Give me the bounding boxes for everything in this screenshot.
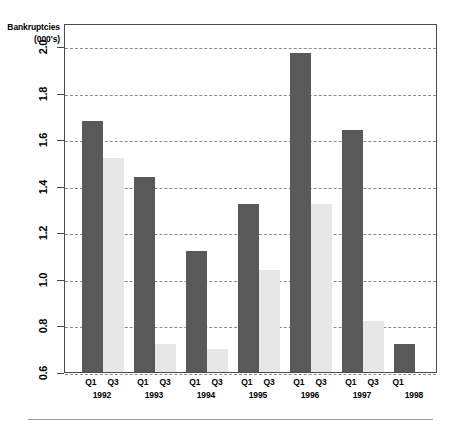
x-axis-year-label: 1997 bbox=[333, 390, 391, 402]
x-axis-group-1996: Q1Q31996 bbox=[281, 377, 339, 401]
x-axis-group-1993: Q1Q31993 bbox=[125, 377, 183, 401]
bar-q3-1992 bbox=[103, 158, 124, 372]
y-axis-title-line1: Bankruptcies bbox=[7, 22, 60, 32]
bar-q1-1992 bbox=[82, 121, 103, 372]
bar-q3-1997 bbox=[363, 321, 384, 372]
x-axis-quarters-1997: Q1Q3 bbox=[333, 377, 391, 389]
x-axis-quarters-1996: Q1Q3 bbox=[281, 377, 339, 389]
bar-q1-1994 bbox=[186, 251, 207, 372]
y-axis-tick-mark bbox=[57, 94, 64, 95]
x-axis-group-1995: Q1Q31995 bbox=[229, 377, 287, 401]
x-axis-group-1997: Q1Q31997 bbox=[333, 377, 391, 401]
y-axis-title: Bankruptcies (000's) bbox=[2, 22, 60, 45]
x-axis-quarters-1994: Q1Q3 bbox=[177, 377, 235, 389]
y-axis-tick-label: 1.2 bbox=[36, 218, 50, 248]
x-axis-group-1992: Q1Q31992 bbox=[73, 377, 131, 401]
x-axis-year-label: 1998 bbox=[385, 390, 443, 402]
x-axis-year-label: 1995 bbox=[229, 390, 287, 402]
y-axis-tick-mark bbox=[57, 373, 64, 374]
y-axis-title-line2: (000's) bbox=[2, 34, 60, 46]
x-axis-year-label: 1996 bbox=[281, 390, 339, 402]
y-axis-tick-label: 1.6 bbox=[36, 125, 50, 155]
y-axis-tick-label: 1.4 bbox=[36, 172, 50, 202]
bar-q3-1996 bbox=[311, 204, 332, 372]
bar-q3-1995 bbox=[259, 270, 280, 372]
x-axis-quarters-1995: Q1Q3 bbox=[229, 377, 287, 389]
x-axis-year-label: 1993 bbox=[125, 390, 183, 402]
bar-q1-1997 bbox=[342, 130, 363, 372]
gridline bbox=[65, 48, 436, 49]
y-axis-tick-label: 1.8 bbox=[36, 79, 50, 109]
x-tick-q1: Q1 bbox=[85, 377, 96, 389]
x-tick-q3: Q3 bbox=[160, 377, 171, 389]
x-axis-quarters-1993: Q1Q3 bbox=[125, 377, 183, 389]
x-tick-q1: Q1 bbox=[392, 377, 403, 389]
x-tick-q1: Q1 bbox=[137, 377, 148, 389]
y-axis-tick-label: 2.0 bbox=[36, 32, 50, 62]
y-axis-tick-mark bbox=[57, 280, 64, 281]
x-axis-year-label: 1992 bbox=[73, 390, 131, 402]
bar-q3-1994 bbox=[207, 349, 228, 372]
y-axis-tick-label: 1.0 bbox=[36, 265, 50, 295]
x-axis-quarters-1992: Q1Q3 bbox=[73, 377, 131, 389]
x-axis-group-1998: Q11998 bbox=[385, 377, 443, 401]
footer-divider bbox=[28, 419, 433, 420]
bar-q1-1995 bbox=[238, 204, 259, 372]
x-tick-q1: Q1 bbox=[241, 377, 252, 389]
y-axis-tick-label: 0.6 bbox=[36, 358, 50, 388]
x-axis-quarters-1998: Q1 bbox=[385, 377, 443, 389]
x-tick-q1: Q1 bbox=[293, 377, 304, 389]
y-axis-tick-mark bbox=[57, 140, 64, 141]
y-axis-tick-mark bbox=[57, 187, 64, 188]
x-tick-q3: Q3 bbox=[316, 377, 327, 389]
bar-q3-1993 bbox=[155, 344, 176, 372]
bar-q1-1998 bbox=[394, 344, 415, 372]
plot-area bbox=[64, 24, 437, 373]
gridline bbox=[65, 374, 436, 375]
y-axis-tick-mark bbox=[57, 326, 64, 327]
bar-q1-1996 bbox=[290, 53, 311, 372]
x-tick-q3: Q3 bbox=[108, 377, 119, 389]
gridline bbox=[65, 95, 436, 96]
gridline bbox=[65, 141, 436, 142]
x-tick-q3: Q3 bbox=[212, 377, 223, 389]
x-tick-q1: Q1 bbox=[189, 377, 200, 389]
y-axis-tick-mark bbox=[57, 47, 64, 48]
x-axis-group-1994: Q1Q31994 bbox=[177, 377, 235, 401]
x-tick-q1: Q1 bbox=[345, 377, 356, 389]
x-tick-q3: Q3 bbox=[264, 377, 275, 389]
y-axis-tick-mark bbox=[57, 233, 64, 234]
bankruptcies-bar-chart: Bankruptcies (000's) 2.01.81.61.41.21.00… bbox=[0, 0, 461, 432]
x-axis-year-label: 1994 bbox=[177, 390, 235, 402]
bar-q1-1993 bbox=[134, 177, 155, 372]
x-tick-q3: Q3 bbox=[368, 377, 379, 389]
y-axis-tick-label: 0.8 bbox=[36, 311, 50, 341]
